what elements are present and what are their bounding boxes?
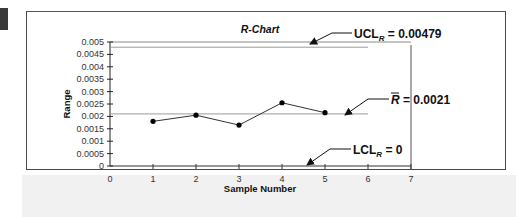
- ucl-label: UCL: [354, 27, 379, 41]
- reference-lines: [110, 47, 368, 114]
- x-tick-label: 1: [150, 174, 155, 184]
- x-tick-label: 7: [408, 174, 413, 184]
- ucl-value: = 0.00479: [384, 27, 441, 41]
- chart-title: R-Chart: [241, 23, 280, 35]
- lcl-annotation: LCLR = 0: [307, 143, 403, 165]
- x-tick-label: 2: [193, 174, 198, 184]
- y-tick-label: 0.0045: [76, 49, 104, 59]
- y-tick-label: 0.004: [81, 62, 104, 72]
- y-tick-label: 0.0035: [76, 74, 104, 84]
- y-tick-label: 0.003: [81, 87, 104, 97]
- y-tick-label: 0: [99, 161, 104, 171]
- lcl-label: LCL: [353, 143, 376, 157]
- svg-text:UCLR = 0.00479: UCLR = 0.00479: [354, 27, 442, 43]
- y-tick-label: 0.0025: [76, 99, 104, 109]
- x-axis-label: Sample Number: [224, 183, 297, 194]
- y-tick-label: 0.0005: [76, 149, 104, 159]
- data-point: [193, 113, 198, 118]
- ucl-annotation: UCLR = 0.00479: [310, 27, 442, 44]
- svg-text:LCLR = 0: LCLR = 0: [353, 143, 403, 159]
- data-point: [279, 100, 284, 105]
- y-tick-label: 0.001: [81, 136, 104, 146]
- x-tick-label: 5: [322, 174, 327, 184]
- lcl-value: = 0: [382, 143, 403, 157]
- rbar-value: = 0.0021: [400, 93, 451, 107]
- y-axis-label: Range: [61, 89, 72, 118]
- svg-text:R = 0.0021: R = 0.0021: [391, 93, 450, 107]
- data-point: [150, 119, 155, 124]
- rbar-annotation: R = 0.0021: [345, 93, 450, 115]
- y-tick-label: 0.002: [81, 111, 104, 121]
- y-tick-label: 0.005: [81, 37, 104, 47]
- rbar-label: R: [391, 93, 400, 107]
- tick-labels: 0.0050.00450.0040.00350.0030.00250.0020.…: [76, 37, 413, 184]
- data-point: [322, 110, 327, 115]
- x-tick-label: 6: [365, 174, 370, 184]
- r-chart: 0.0050.00450.0040.00350.0030.00250.0020.…: [0, 0, 516, 217]
- x-tick-label: 0: [107, 174, 112, 184]
- data-point: [236, 122, 241, 127]
- y-tick-label: 0.0015: [76, 124, 104, 134]
